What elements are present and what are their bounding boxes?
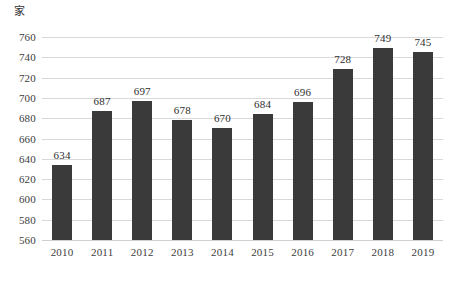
bar bbox=[212, 128, 232, 240]
bar-value-label: 745 bbox=[414, 37, 431, 48]
bar-value-label: 728 bbox=[334, 54, 351, 65]
x-axis-tick-label: 2017 bbox=[331, 246, 354, 259]
bar-group: 697 bbox=[122, 37, 162, 240]
y-axis-tick-label: 700 bbox=[19, 92, 36, 103]
bar-value-label: 684 bbox=[254, 99, 271, 110]
bar-value-label: 670 bbox=[214, 113, 231, 124]
bar-value-label: 678 bbox=[174, 105, 191, 116]
plot-area: 634687697678670684696728749745 bbox=[42, 37, 443, 240]
bar-group: 745 bbox=[403, 37, 443, 240]
x-axis-tick-label: 2013 bbox=[171, 246, 194, 259]
bar bbox=[172, 120, 192, 240]
x-axis-tick-label: 2015 bbox=[251, 246, 274, 259]
bar-value-label: 697 bbox=[134, 86, 151, 97]
bar-group: 678 bbox=[162, 37, 202, 240]
x-axis-tick-label: 2010 bbox=[51, 246, 74, 259]
bar bbox=[333, 69, 353, 240]
bar-value-label: 687 bbox=[94, 96, 111, 107]
bar-group: 728 bbox=[323, 37, 363, 240]
bar-value-label: 749 bbox=[374, 33, 391, 44]
x-axis-tick-label: 2014 bbox=[211, 246, 234, 259]
bar-value-label: 696 bbox=[294, 87, 311, 98]
y-axis-tick-label: 580 bbox=[19, 214, 36, 225]
gridline bbox=[42, 240, 443, 241]
bar bbox=[52, 165, 72, 240]
x-axis-tick-label: 2011 bbox=[91, 246, 113, 259]
y-axis-unit-label: 家 bbox=[14, 5, 25, 18]
y-axis-tick-label: 760 bbox=[19, 32, 36, 43]
bars-layer: 634687697678670684696728749745 bbox=[42, 37, 443, 240]
bar bbox=[253, 114, 273, 240]
bar-value-label: 634 bbox=[53, 150, 70, 161]
bar bbox=[293, 102, 313, 240]
y-axis-tick-label: 560 bbox=[19, 235, 36, 246]
y-axis-tick-label: 740 bbox=[19, 52, 36, 63]
x-axis-tick-label: 2012 bbox=[131, 246, 154, 259]
bar bbox=[92, 111, 112, 240]
bar-group: 634 bbox=[42, 37, 82, 240]
bar-group: 684 bbox=[243, 37, 283, 240]
bar bbox=[413, 52, 433, 240]
bar-chart: 家 760740720700680660640620600580560 6346… bbox=[0, 0, 450, 285]
x-axis-tick-label: 2018 bbox=[371, 246, 394, 259]
y-axis-tick-label: 680 bbox=[19, 113, 36, 124]
y-axis-tick-labels: 760740720700680660640620600580560 bbox=[0, 37, 42, 240]
x-axis-tick-label: 2016 bbox=[291, 246, 314, 259]
bar-group: 696 bbox=[283, 37, 323, 240]
x-axis-tick-label: 2019 bbox=[412, 246, 435, 259]
bar-group: 670 bbox=[202, 37, 242, 240]
y-axis-tick-label: 600 bbox=[19, 194, 36, 205]
bar bbox=[132, 101, 152, 240]
y-axis-tick-label: 720 bbox=[19, 72, 36, 83]
bar-group: 749 bbox=[363, 37, 403, 240]
x-axis-tick-labels: 2010201120122013201420152016201720182019 bbox=[42, 246, 443, 264]
y-axis-tick-label: 660 bbox=[19, 133, 36, 144]
y-axis-tick-label: 620 bbox=[19, 174, 36, 185]
y-axis-tick-label: 640 bbox=[19, 153, 36, 164]
bar bbox=[373, 48, 393, 240]
bar-group: 687 bbox=[82, 37, 122, 240]
